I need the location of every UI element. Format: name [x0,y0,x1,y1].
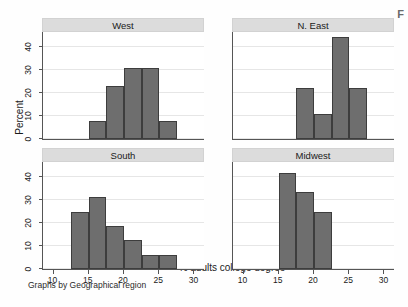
x-axis: 1015202530 [232,270,394,288]
x-tick [158,270,159,274]
x-tick-label: 20 [114,275,132,285]
x-tick [123,270,124,274]
x-tick [383,270,384,274]
histogram-bar [106,86,124,139]
x-tick-label: 25 [149,275,167,285]
y-tick-label: 0 [23,132,33,146]
plot-area: 010203040 [42,162,204,270]
x-tick [53,270,54,274]
y-tick-label: 40 [23,40,33,54]
histogram-bar [106,226,124,269]
y-tick [39,115,43,116]
plot-area: 010203040 [42,32,204,140]
y-tick [39,268,43,269]
gridline-y-40 [43,46,204,47]
x-tick-label: 20 [304,275,322,285]
y-tick-label: 10 [23,239,33,253]
panel-south: South0102030401015202530 [42,148,204,270]
histogram-bar [314,212,332,269]
gridline-y-30 [233,69,394,70]
x-axis: 1015202530 [42,270,204,288]
x-tick-label: 10 [234,275,252,285]
y-tick-label: 40 [23,170,33,184]
histogram-bar [279,173,297,269]
y-tick-label: 20 [23,216,33,230]
histogram-bar [159,255,177,269]
x-tick-label: 15 [269,275,287,285]
x-tick [278,270,279,274]
y-tick-label: 30 [23,63,33,77]
y-tick [39,92,43,93]
y-tick [39,69,43,70]
x-tick [193,270,194,274]
y-tick [39,46,43,47]
corner-artifact-text: F [397,8,404,20]
histogram-bar [89,121,107,139]
histogram-bar [332,37,350,139]
histogram-bar [71,212,89,269]
x-tick [348,270,349,274]
y-tick-label: 30 [23,193,33,207]
plot-area [232,162,394,270]
histogram-bar [124,68,142,139]
histogram-figure: F Percent % adults college degree Graphs… [0,0,408,307]
y-tick-label: 0 [23,262,33,276]
y-tick [39,245,43,246]
gridline-y-40 [233,46,394,47]
x-tick [243,270,244,274]
x-tick-label: 30 [184,275,202,285]
gridline-y-40 [43,176,204,177]
panel-title: Midwest [232,148,394,162]
histogram-bar [349,88,367,139]
panel-title: South [42,148,204,162]
panel-title: West [42,18,204,32]
plot-area [232,32,394,140]
panel-title: N. East [232,18,394,32]
histogram-bar [124,240,142,269]
x-tick-label: 10 [44,275,62,285]
panel-west: West010203040 [42,18,204,140]
gridline-y-30 [43,199,204,200]
y-tick [39,199,43,200]
histogram-bar [159,121,177,139]
y-tick-label: 10 [23,109,33,123]
y-tick [39,138,43,139]
histogram-bar [89,197,107,269]
panel-midwest: Midwest1015202530 [232,148,394,270]
gridline-y-40 [233,176,394,177]
y-tick [39,176,43,177]
x-tick-label: 25 [339,275,357,285]
histogram-bar [296,192,314,269]
y-tick-label: 20 [23,86,33,100]
x-tick-label: 30 [374,275,392,285]
histogram-bar [314,114,332,140]
histogram-bar [296,88,314,139]
panel-n-east: N. East [232,18,394,140]
x-tick [313,270,314,274]
gridline-y-20 [43,222,204,223]
x-tick-label: 15 [79,275,97,285]
histogram-bar [142,255,160,269]
y-tick [39,222,43,223]
x-tick [88,270,89,274]
histogram-bar [142,68,160,139]
